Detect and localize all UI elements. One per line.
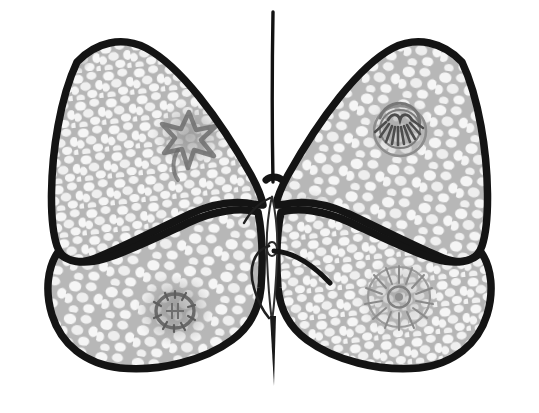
antenna-icon xyxy=(272,12,273,182)
marking-lower-right-rosette xyxy=(357,257,441,337)
marking-upper-right-eyespot xyxy=(367,98,433,160)
marking-lower-left-blot xyxy=(135,274,215,346)
image-canvas: Butterfly line drawing with mottled wing… xyxy=(0,0,539,413)
butterfly-illustration xyxy=(0,0,539,413)
